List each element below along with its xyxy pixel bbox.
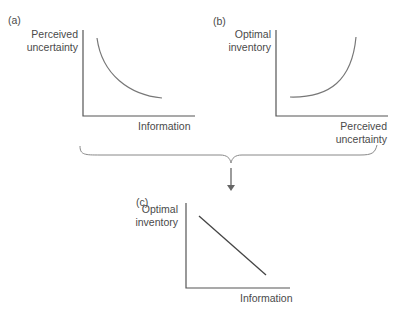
panel-a-xlabel: Information (138, 120, 191, 132)
panel-b-axes (276, 30, 388, 116)
panel-a-ylabel-2: uncertainty (27, 41, 78, 53)
panel-a-tag: (a) (8, 14, 21, 26)
panel-b-ylabel-1: Optimal (235, 28, 271, 40)
panel-a-axes (83, 30, 195, 116)
panel-c-ylabel-1: Optimal (142, 203, 178, 215)
panel-b-xlabel-2: uncertainty (336, 133, 387, 145)
panel-b-xlabel-1: Perceived (340, 120, 387, 132)
arrow-head (227, 185, 235, 191)
panel-a-ylabel-1: Perceived (31, 28, 78, 40)
panel-b-curve (290, 37, 356, 97)
panel-b-ylabel-2: inventory (228, 41, 271, 53)
panel-c-xlabel: Information (240, 292, 293, 304)
panel-c-axes (186, 203, 290, 288)
brace (80, 145, 377, 163)
panel-a-curve (97, 38, 162, 98)
panel-b-tag: (b) (213, 15, 226, 27)
panel-c-curve (199, 216, 266, 275)
panel-c-ylabel-2: inventory (135, 216, 178, 228)
